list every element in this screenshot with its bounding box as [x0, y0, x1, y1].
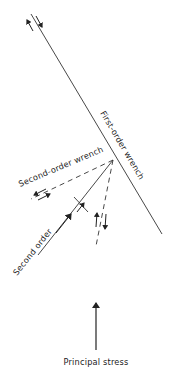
- antithetic-fault: [96, 160, 113, 246]
- principal-stress-label: Principal stress: [64, 357, 129, 367]
- second-order-label: Second order: [11, 226, 55, 277]
- cross-marker-icon: [74, 197, 88, 212]
- second-order-wrench-fault: Second-order wrench: [17, 144, 113, 200]
- first-order-wrench-label: First-order wrench: [98, 109, 146, 181]
- second-order-wrench-label: Second-order wrench: [17, 144, 105, 189]
- antithetic-shear-arrows-icon: [96, 213, 106, 229]
- principal-stress-arrow: Principal stress: [64, 303, 129, 367]
- wrench-fault-diagram: First-order wrench Second-order wrench S…: [0, 0, 169, 377]
- first-order-wrench-fault: First-order wrench: [27, 14, 162, 234]
